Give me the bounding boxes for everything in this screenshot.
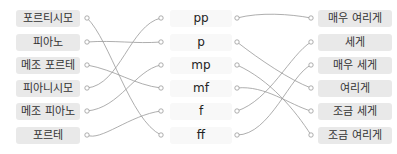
connector-line xyxy=(87,18,161,135)
connector-line xyxy=(87,111,161,136)
connector-line xyxy=(237,14,311,18)
connector-line xyxy=(87,18,161,88)
left-dots xyxy=(85,16,89,137)
connector-line xyxy=(237,65,311,135)
connector-line xyxy=(237,88,311,111)
connector-line xyxy=(237,42,311,88)
connector-line xyxy=(87,65,161,111)
connector-line xyxy=(87,41,161,42)
connector-line xyxy=(237,42,311,111)
connection-lines xyxy=(0,0,397,154)
middle-right-dots xyxy=(235,16,239,137)
middle-left-dots xyxy=(159,16,163,137)
connector-line xyxy=(237,65,311,135)
right-dots xyxy=(309,16,313,137)
